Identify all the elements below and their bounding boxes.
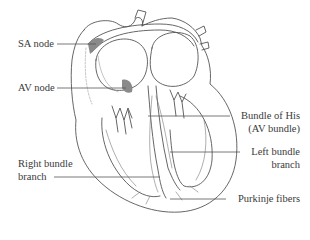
label-right-bundle-line1: Right bundle xyxy=(18,157,73,170)
label-left-bundle-line1: Left bundle xyxy=(251,145,300,158)
label-left-bundle-line2: branch xyxy=(251,158,300,171)
vessel-stub xyxy=(200,42,209,50)
av-node-shape xyxy=(122,80,132,93)
label-right-bundle-branch: Right bundle branch xyxy=(18,157,73,183)
label-right-bundle-line2: branch xyxy=(18,170,73,183)
label-sa-node: SA node xyxy=(18,37,54,50)
label-bundle-of-his-line2: (AV bundle) xyxy=(241,122,300,135)
label-av-node: AV node xyxy=(18,81,55,94)
label-purkinje-fibers: Purkinje fibers xyxy=(238,192,300,205)
label-bundle-of-his-line1: Bundle of His xyxy=(241,109,300,122)
label-bundle-of-his: Bundle of His (AV bundle) xyxy=(241,109,300,135)
sa-node-shape xyxy=(88,38,104,54)
label-left-bundle-branch: Left bundle branch xyxy=(251,145,300,171)
